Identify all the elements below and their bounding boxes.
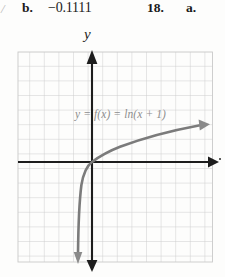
part-a-label: a. [186, 0, 196, 16]
curve-equation-label: y = f(x) = ln(x + 1) [75, 108, 166, 120]
coordinate-plot [0, 22, 225, 277]
graph-figure: y y = f(x [0, 22, 225, 277]
grid-lines [18, 52, 213, 262]
problem-number: 18. [147, 0, 164, 16]
stray-ink-mark: / [1, 1, 5, 17]
part-b-label: b. [22, 0, 33, 16]
part-b-value: −0.1111 [48, 0, 91, 16]
answer-key-line: / b. −0.1111 18. a. [0, 0, 225, 24]
trailing-period-mark [219, 158, 221, 160]
